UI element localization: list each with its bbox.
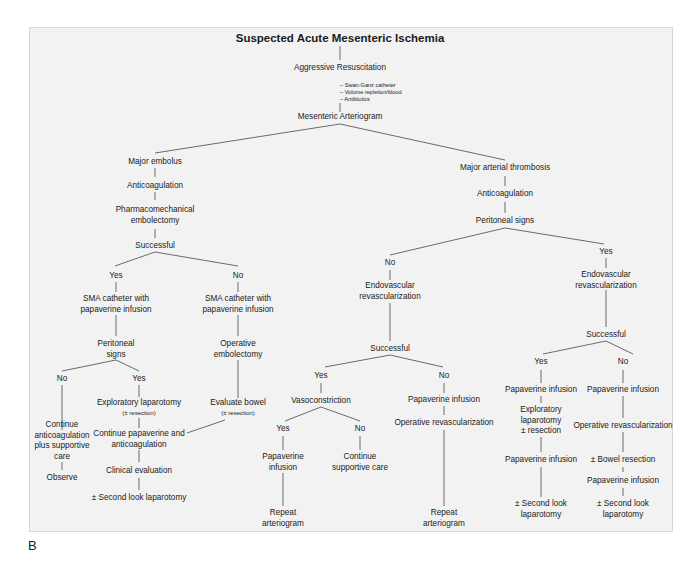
line: Continue xyxy=(46,420,79,429)
line: papaverine infusion xyxy=(80,305,151,314)
label-yes: Yes xyxy=(109,271,122,282)
line: (± resection) xyxy=(97,409,181,417)
node-evaluate-bowel: Evaluate bowel (± resection) xyxy=(210,398,266,417)
node-sma-catheter: SMA catheter with papaverine infusion xyxy=(80,294,151,315)
label-no: No xyxy=(57,374,67,385)
node-bowel-resection: ± Bowel resection xyxy=(591,455,656,466)
line: ± resection xyxy=(521,426,561,435)
node-exploratory-laparotomy: Exploratory laparotomy ± resection xyxy=(520,405,561,437)
node-peritoneal-signs: Peritoneal signs xyxy=(98,339,135,360)
node-observe: Observe xyxy=(47,473,78,484)
line: ± Second look xyxy=(597,499,649,508)
line: supportive care xyxy=(332,463,388,472)
label-no: No xyxy=(233,271,243,282)
label-no: No xyxy=(618,357,628,368)
line: laparotomy xyxy=(521,510,562,519)
label-yes: Yes xyxy=(314,371,327,382)
label-yes: Yes xyxy=(132,374,145,385)
node-major-arterial-thrombosis: Major arterial thrombosis xyxy=(460,163,550,174)
label-yes: Yes xyxy=(599,247,612,258)
node-pharmacomechanical-embolectomy: Pharmacomechanical embolectomy xyxy=(116,205,195,226)
line: care xyxy=(54,452,70,461)
line: Papaverine xyxy=(262,452,303,461)
line: papaverine infusion xyxy=(202,305,273,314)
bullet-item: Swan-Ganz catheter xyxy=(340,82,402,89)
node-continue-papaverine: Continue papaverine and anticoagulation xyxy=(93,429,185,450)
line: plus supportive xyxy=(34,441,89,450)
node-papaverine-infusion: Papaverine infusion xyxy=(505,385,577,396)
resuscitation-bullet-list: Swan-Ganz catheter Volume repletion/bloo… xyxy=(340,82,402,104)
node-continue-anticoagulation: Continue anticoagulation plus supportive… xyxy=(34,420,89,462)
line: revascularization xyxy=(575,281,636,290)
line: anticoagulation xyxy=(111,440,166,449)
line: anticoagulation xyxy=(34,431,89,440)
node-endovascular-revascularization: Endovascular revascularization xyxy=(359,281,420,302)
node-operative-embolectomy: Operative embolectomy xyxy=(214,339,263,360)
line: revascularization xyxy=(359,292,420,301)
line: embolectomy xyxy=(131,216,180,225)
line: Continue xyxy=(344,452,377,461)
node-papaverine-infusion: Papaverine infusion xyxy=(587,385,659,396)
line: Continue papaverine and xyxy=(93,429,185,438)
node-successful: Successful xyxy=(370,344,410,355)
node-operative-revascularization: Operative revascularization xyxy=(394,418,493,429)
line: SMA catheter with xyxy=(205,294,271,303)
node-repeat-arteriogram: Repeat arteriogram xyxy=(262,508,304,529)
label-no: No xyxy=(385,258,395,269)
chart-title: Suspected Acute Mesenteric Ischemia xyxy=(236,33,445,44)
line: signs xyxy=(106,350,125,359)
node-vasoconstriction: Vasoconstriction xyxy=(291,396,350,407)
node-second-look-laparotomy: ± Second look laparotomy xyxy=(92,493,187,504)
label-no: No xyxy=(439,371,449,382)
line: SMA catheter with xyxy=(83,294,149,303)
line: Evaluate bowel xyxy=(210,398,266,407)
line: Endovascular xyxy=(365,281,415,290)
node-second-look-laparotomy: ± Second look laparotomy xyxy=(515,499,567,520)
node-second-look-laparotomy: ± Second look laparotomy xyxy=(597,499,649,520)
node-aggressive-resuscitation: Aggressive Resuscitation xyxy=(294,63,386,74)
node-anticoagulation: Anticoagulation xyxy=(127,181,183,192)
node-successful: Successful xyxy=(135,241,175,252)
node-anticoagulation: Anticoagulation xyxy=(477,189,533,200)
line: Exploratory laparotomy xyxy=(97,398,181,407)
node-operative-revascularization: Operative revascularization xyxy=(573,421,672,432)
node-continue-supportive-care: Continue supportive care xyxy=(332,452,388,473)
line: Operative xyxy=(220,339,256,348)
line: arteriogram xyxy=(423,519,465,528)
node-papaverine-infusion: Papaverine infusion xyxy=(587,476,659,487)
line: Repeat xyxy=(431,508,457,517)
line: infusion xyxy=(269,463,297,472)
node-mesenteric-arteriogram: Mesenteric Arteriogram xyxy=(298,112,383,123)
line: Endovascular xyxy=(581,270,631,279)
node-peritoneal-signs: Peritoneal signs xyxy=(476,216,534,227)
line: laparotomy xyxy=(521,416,562,425)
node-papaverine-infusion: Papaverine infusion xyxy=(505,455,577,466)
node-papaverine-infusion: Papaverine infusion xyxy=(262,452,303,473)
label-no: No xyxy=(355,424,365,435)
bullet-item: Volume repletion/blood xyxy=(340,89,402,96)
node-endovascular-revascularization: Endovascular revascularization xyxy=(575,270,636,291)
node-repeat-arteriogram: Repeat arteriogram xyxy=(423,508,465,529)
line: Pharmacomechanical xyxy=(116,205,195,214)
node-sma-catheter: SMA catheter with papaverine infusion xyxy=(202,294,273,315)
label-yes: Yes xyxy=(534,357,547,368)
line: Repeat xyxy=(270,508,296,517)
node-exploratory-laparotomy: Exploratory laparotomy (± resection) xyxy=(97,398,181,417)
node-successful: Successful xyxy=(586,330,626,341)
node-major-embolus: Major embolus xyxy=(128,157,182,168)
line: Peritoneal xyxy=(98,339,135,348)
line: (± resection) xyxy=(210,409,266,417)
bullet-item: Antibiotics xyxy=(340,96,402,103)
label-yes: Yes xyxy=(276,424,289,435)
line: embolectomy xyxy=(214,350,263,359)
line: arteriogram xyxy=(262,519,304,528)
line: Exploratory xyxy=(520,405,561,414)
line: laparotomy xyxy=(603,510,644,519)
node-clinical-evaluation: Clinical evaluation xyxy=(106,466,172,477)
line: ± Second look xyxy=(515,499,567,508)
figure-label: B xyxy=(28,538,37,553)
node-papaverine-infusion: Papaverine infusion xyxy=(408,395,480,406)
